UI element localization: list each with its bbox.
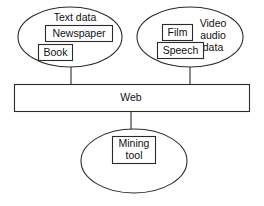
diagram-svg: Text data Newspaper Book Video audio dat… [0,0,264,206]
speech-label: Speech [163,44,199,56]
node-web-bar: Web [15,85,250,112]
video-audio-label-line3: data [203,41,224,53]
film-label: Film [168,26,188,38]
mining-tool-label-line2: tool [126,149,143,161]
newspaper-label: Newspaper [52,27,106,39]
node-text-data-group: Text data Newspaper Book [18,7,122,67]
text-data-label: Text data [54,11,97,23]
video-audio-label-line1: Video [200,17,227,29]
book-label: Book [44,46,69,58]
diagram-canvas: Text data Newspaper Book Video audio dat… [0,0,264,206]
web-label: Web [120,91,142,103]
node-video-audio-group: Video audio data Film Speech [137,7,243,67]
node-mining-group: Mining tool [81,129,187,193]
video-audio-label-line2: audio [200,29,226,41]
mining-tool-label-line1: Mining [119,137,150,149]
